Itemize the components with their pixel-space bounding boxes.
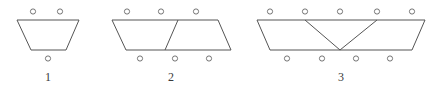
trapezoid-figure-3 xyxy=(257,20,425,50)
trapezoid-figure-2 xyxy=(112,20,231,50)
figure-sequence-page: 1 2 3 xyxy=(0,0,435,94)
vertex-circles-figure-2 xyxy=(124,9,211,61)
figure-label-1: 1 xyxy=(28,70,68,84)
bottom-circle-marker xyxy=(284,56,289,61)
bottom-circle-marker xyxy=(172,56,177,61)
bottom-circle-marker xyxy=(387,56,392,61)
bottom-circle-marker xyxy=(206,56,211,61)
top-circle-marker xyxy=(302,9,307,14)
figure-label-3: 3 xyxy=(321,70,361,84)
top-circle-marker xyxy=(374,9,379,14)
trapezoid-divider-line xyxy=(305,20,340,50)
trapezoid-divider-line xyxy=(165,20,178,50)
vertex-circles-figure-1 xyxy=(30,9,62,61)
top-circle-marker xyxy=(409,9,414,14)
trapezoid-outline xyxy=(17,20,79,50)
figure-label-2: 2 xyxy=(151,70,191,84)
vertex-circles-figure-3 xyxy=(267,9,414,61)
trapezoid-figure-1 xyxy=(17,20,79,50)
shapes-layer xyxy=(17,20,425,50)
bottom-circle-marker xyxy=(319,56,324,61)
top-circle-marker xyxy=(57,9,62,14)
top-circle-marker xyxy=(124,9,129,14)
top-circle-marker xyxy=(193,9,198,14)
top-circle-marker xyxy=(267,9,272,14)
trapezoid-outline xyxy=(257,20,425,50)
bottom-circle-marker xyxy=(45,56,50,61)
trapezoid-divider-line xyxy=(340,20,377,50)
bottom-circle-marker xyxy=(137,56,142,61)
top-circle-marker xyxy=(337,9,342,14)
circles-layer xyxy=(30,9,414,61)
bottom-circle-marker xyxy=(353,56,358,61)
top-circle-marker xyxy=(30,9,35,14)
top-circle-marker xyxy=(158,9,163,14)
